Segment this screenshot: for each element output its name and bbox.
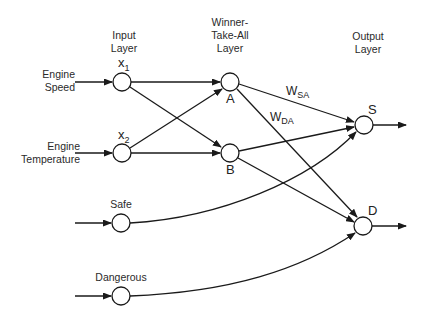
node-x2 xyxy=(113,144,131,162)
B-label: B xyxy=(226,162,235,177)
S-label: S xyxy=(368,102,377,117)
D-label: D xyxy=(368,203,377,218)
dangerous-label: Dangerous xyxy=(86,271,156,284)
output-layer-label: Output Layer xyxy=(343,30,393,56)
engine-temperature-label: Engine Temperature xyxy=(0,140,80,166)
input-layer-label: Input Layer xyxy=(104,29,144,55)
node-B xyxy=(221,144,239,162)
A-label: A xyxy=(226,91,235,106)
wta-layer-label: Winner- Take-All Layer xyxy=(200,16,260,55)
node-dangerous xyxy=(112,287,130,305)
node-D xyxy=(354,217,372,235)
x1-label: x1 xyxy=(118,55,130,73)
engine-speed-label: Engine Speed xyxy=(10,68,75,94)
weight-SA-label: WSA xyxy=(286,84,309,100)
x2-label: x2 xyxy=(118,127,130,145)
safe-label: Safe xyxy=(101,198,141,211)
node-x1 xyxy=(113,73,131,91)
node-safe xyxy=(112,214,130,232)
node-S xyxy=(355,116,373,134)
weight-DA-label: WDA xyxy=(270,110,294,126)
node-A xyxy=(221,73,239,91)
